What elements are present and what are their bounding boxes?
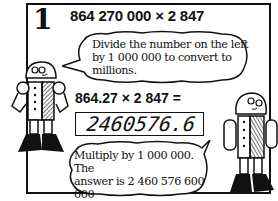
- bubble-top-line-2: by 1 000 000 to convert to: [92, 51, 248, 64]
- speech-bubble-bottom: Multiply by 1 000 000. The answer is 2 4…: [62, 140, 212, 198]
- calculator-display-value: 2460576.6: [85, 113, 196, 135]
- bubble-top-line-3: millions.: [92, 64, 248, 77]
- calculator-display: 2460576.6: [75, 112, 204, 136]
- right-robot-illustration: [208, 88, 278, 196]
- step-number: 1: [33, 6, 52, 34]
- bubble-bottom-line-2: answer is 2 460 576 600 000: [74, 175, 212, 201]
- robot-icon: [208, 88, 278, 196]
- equation: 864.27 × 2 847 =: [75, 90, 181, 106]
- left-robot-illustration: [4, 58, 74, 158]
- bubble-top-line-1: Divide the number on the left: [92, 38, 248, 51]
- bubble-bottom-line-1: Multiply by 1 000 000. The: [74, 149, 212, 175]
- problem-heading: 864 270 000 × 2 847: [70, 7, 204, 24]
- robot-icon: [4, 58, 74, 158]
- speech-bubble-top: Divide the number on the left by 1 000 0…: [62, 30, 252, 85]
